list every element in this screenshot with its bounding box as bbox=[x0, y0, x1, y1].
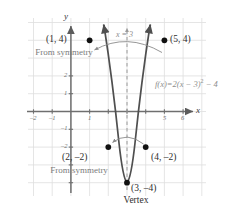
equation-inner: x − 3 bbox=[180, 79, 198, 89]
equation-coefficient: 2( bbox=[173, 79, 180, 89]
x-tick-label-6: 6 bbox=[181, 115, 184, 122]
data-point-1-4 bbox=[87, 37, 93, 43]
point-label-1-4: (1, 4) bbox=[46, 35, 67, 45]
data-point-5-4 bbox=[162, 37, 168, 43]
vertex-word-label: Vertex bbox=[105, 196, 167, 206]
symmetry-arrow-lower bbox=[113, 137, 144, 144]
from-symmetry-note-upper: From symmetry bbox=[33, 48, 95, 57]
symmetry-arrow-upper bbox=[95, 42, 163, 53]
point-label-2-neg2: (2, –2) bbox=[62, 153, 87, 163]
x-axis-label: x bbox=[196, 106, 200, 115]
point-label-5-4: (5, 4) bbox=[170, 35, 191, 45]
y-tick-label-neg1: –1 bbox=[61, 125, 68, 132]
curve-arrow-right bbox=[149, 25, 151, 34]
point-label-vertex-coords: (3, –4) bbox=[131, 184, 156, 194]
axis-of-symmetry-label: x = 3 bbox=[116, 31, 133, 39]
x-tick-label-neg2: –2 bbox=[30, 115, 37, 122]
x-tick-label-neg1: –1 bbox=[49, 115, 56, 122]
y-axis-label: y bbox=[64, 12, 68, 21]
equation-fname: f(x) bbox=[155, 79, 167, 89]
equation-constant: − 4 bbox=[204, 79, 218, 89]
point-label-4-neg2: (4, –2) bbox=[151, 153, 176, 163]
data-point-2-neg2 bbox=[105, 144, 111, 150]
y-tick-label-2: 2 bbox=[64, 72, 67, 79]
curve-arrow-left bbox=[104, 25, 106, 34]
from-symmetry-note-lower: From symmetry bbox=[48, 166, 110, 175]
x-tick-label-1: 1 bbox=[88, 115, 91, 122]
x-tick-label-5: 5 bbox=[163, 115, 166, 122]
y-tick-label-neg2: –2 bbox=[61, 143, 68, 150]
parabola-figure: y x –2 –1 1 5 6 2 1 –1 –2 x = 3 (1, 4) F… bbox=[0, 0, 243, 211]
data-point-vertex-3-neg4 bbox=[124, 180, 130, 186]
function-equation: f(x)=2(x − 3)2 − 4 bbox=[155, 78, 218, 89]
data-point-4-neg2 bbox=[143, 144, 149, 150]
y-tick-label-1: 1 bbox=[64, 90, 67, 97]
